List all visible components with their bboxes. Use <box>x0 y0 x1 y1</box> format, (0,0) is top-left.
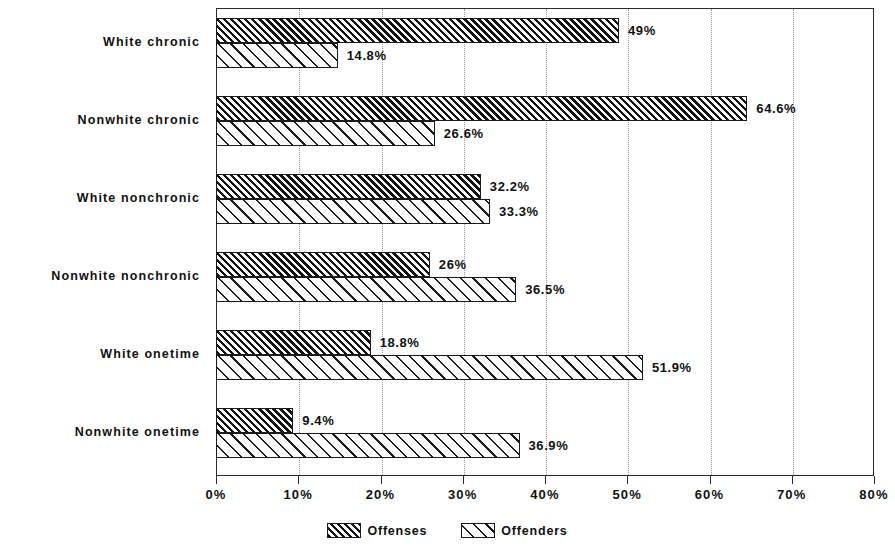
x-tick-80 <box>874 476 875 484</box>
legend-swatch-icon-offenders <box>461 523 495 538</box>
bar-value-label-offenses-1: 64.6% <box>756 96 796 121</box>
x-tick-label-80: 80% <box>859 487 889 502</box>
bar-value-label-offenders-5: 36.9% <box>529 433 569 458</box>
legend-swatch-icon-offenses <box>327 523 361 538</box>
x-tick-60 <box>710 476 711 484</box>
x-tick-label-40: 40% <box>530 487 560 502</box>
bar-value-label-offenders-4: 51.9% <box>652 355 692 380</box>
bar-offenses-3 <box>216 252 430 277</box>
gridline-30 <box>464 9 465 475</box>
category-label-3: Nonwhite nonchronic <box>0 269 200 283</box>
legend-item-offenders: Offenders <box>461 523 567 538</box>
x-tick-label-0: 0% <box>205 487 226 502</box>
bar-offenses-1 <box>216 96 747 121</box>
bar-value-label-offenses-5: 9.4% <box>302 408 334 433</box>
bar-offenders-3 <box>216 277 516 302</box>
gridline-60 <box>711 9 712 475</box>
x-tick-20 <box>381 476 382 484</box>
bar-offenses-0 <box>216 18 619 43</box>
chart-legend: OffensesOffenders <box>0 523 895 538</box>
legend-item-offenses: Offenses <box>327 523 427 538</box>
gridline-40 <box>546 9 547 475</box>
plot-area <box>216 8 874 476</box>
bar-value-label-offenders-2: 33.3% <box>499 199 539 224</box>
bar-value-label-offenders-1: 26.6% <box>444 121 484 146</box>
x-tick-label-20: 20% <box>366 487 396 502</box>
category-label-4: White onetime <box>0 347 200 361</box>
gridline-20 <box>382 9 383 475</box>
category-label-5: Nonwhite onetime <box>0 425 200 439</box>
x-tick-label-70: 70% <box>777 487 807 502</box>
bar-offenses-5 <box>216 408 293 433</box>
x-tick-label-10: 10% <box>283 487 313 502</box>
bar-value-label-offenses-4: 18.8% <box>380 330 420 355</box>
x-tick-0 <box>216 476 217 484</box>
bar-offenders-4 <box>216 355 643 380</box>
bar-value-label-offenses-0: 49% <box>628 18 656 43</box>
category-label-1: Nonwhite chronic <box>0 113 200 127</box>
bar-chart: White chronicNonwhite chronicWhite nonch… <box>0 0 895 552</box>
category-label-0: White chronic <box>0 35 200 49</box>
bar-offenders-1 <box>216 121 435 146</box>
bar-offenders-0 <box>216 43 338 68</box>
bar-offenses-2 <box>216 174 481 199</box>
bar-offenders-2 <box>216 199 490 224</box>
bar-value-label-offenders-0: 14.8% <box>347 43 387 68</box>
legend-label-offenders: Offenders <box>501 524 567 538</box>
x-tick-10 <box>298 476 299 484</box>
x-tick-label-50: 50% <box>612 487 642 502</box>
bar-value-label-offenders-3: 36.5% <box>525 277 565 302</box>
gridline-10 <box>299 9 300 475</box>
x-tick-label-30: 30% <box>448 487 478 502</box>
gridline-50 <box>628 9 629 475</box>
bar-value-label-offenses-2: 32.2% <box>490 174 530 199</box>
legend-label-offenses: Offenses <box>367 524 427 538</box>
category-label-2: White nonchronic <box>0 191 200 205</box>
x-tick-label-60: 60% <box>695 487 725 502</box>
x-tick-70 <box>792 476 793 484</box>
bar-offenses-4 <box>216 330 371 355</box>
x-tick-40 <box>545 476 546 484</box>
gridline-70 <box>793 9 794 475</box>
bar-offenders-5 <box>216 433 520 458</box>
x-tick-30 <box>463 476 464 484</box>
x-tick-50 <box>627 476 628 484</box>
bar-value-label-offenses-3: 26% <box>439 252 467 277</box>
